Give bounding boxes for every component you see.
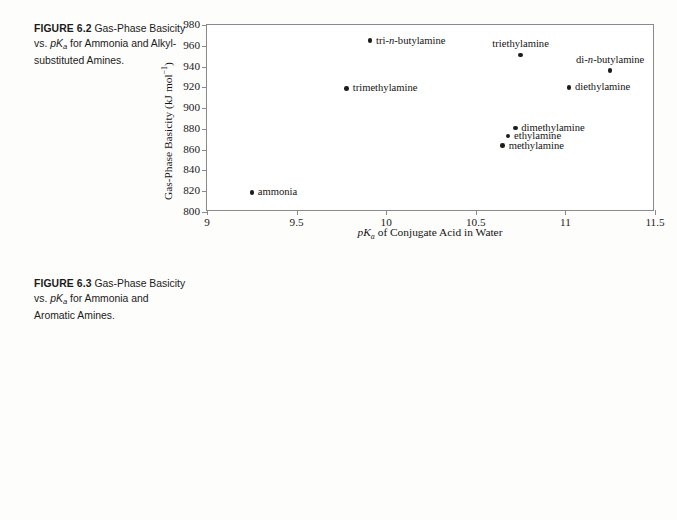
x-axis-tick [386,210,387,215]
x-axis-tick [207,210,208,215]
y-axis-tick-label: 940 [183,61,200,72]
data-point-label: ammonia [258,187,297,198]
data-point [344,86,349,91]
x-axis-tick [476,210,477,215]
data-point [506,134,511,139]
figure-6-3-caption: FIGURE 6.3 Gas-Phase Basicity vs. pKa fo… [34,277,186,324]
x-axis-tick-label: 9.5 [290,217,304,228]
data-point-label: di-n-butylamine [576,55,644,66]
y-axis-tick-label: 900 [183,103,200,114]
data-point [513,126,518,131]
y-axis-tick [202,129,207,130]
y-axis-tick [202,87,207,88]
data-point [567,85,572,90]
data-point-label: triethylamine [492,40,548,51]
data-point [518,53,523,58]
x-axis-tick-label: 11 [560,217,571,228]
data-point-label: dimethylamine [521,123,585,134]
data-point-label: tri-n-butylamine [376,35,445,46]
y-axis-tick [202,25,207,26]
y-axis-tick [202,150,207,151]
y-axis-tick-label: 820 [183,186,200,197]
x-axis-tick-label: 10 [381,217,392,228]
y-axis-tick-label: 920 [183,82,200,93]
y-axis-tick [202,67,207,68]
y-axis-tick-label: 840 [183,165,200,176]
x-axis-tick-label: 10.5 [466,217,486,228]
y-axis-tick-label: 880 [183,123,200,134]
figure-6-2-caption-pka: pKa [50,38,67,49]
x-axis-tick [655,210,656,215]
data-point [608,68,613,73]
data-point-label: methylamine [509,140,564,151]
y-axis-tick [202,108,207,109]
figure-6-3-caption-pka: pKa [50,293,67,304]
figure-6-2-plot-area: 80082084086088090092094096098099.51010.5… [206,24,654,211]
y-axis-tick [202,170,207,171]
x-axis-tick-label: 9 [204,217,210,228]
figure-6-3-label: FIGURE 6.3 [34,278,92,289]
y-axis-tick-label: 980 [183,19,200,30]
y-axis-tick-label: 860 [183,144,200,155]
figure-6-2: FIGURE 6.2 Gas-Phase Basicity vs. pKa fo… [0,0,677,255]
data-point-label: diethylamine [575,82,630,93]
y-axis-tick-label: 800 [183,206,200,217]
figure-6-2-label: FIGURE 6.2 [34,23,92,34]
y-axis-tick [202,46,207,47]
figure-6-2-y-axis-title: Gas-Phase Basicity (kJ mol−1) [160,62,174,200]
y-axis-tick [202,191,207,192]
data-point [500,143,505,148]
figure-page: FIGURE 6.2 Gas-Phase Basicity vs. pKa fo… [0,0,677,520]
figure-6-3: FIGURE 6.3 Gas-Phase Basicity vs. pKa fo… [0,255,677,520]
x-axis-tick-label: 11.5 [645,217,664,228]
x-axis-tick [565,210,566,215]
data-point [368,38,373,43]
x-axis-tick [297,210,298,215]
y-axis-tick-label: 960 [183,40,200,51]
data-point-label: trimethylamine [353,83,418,94]
data-point [250,190,255,195]
